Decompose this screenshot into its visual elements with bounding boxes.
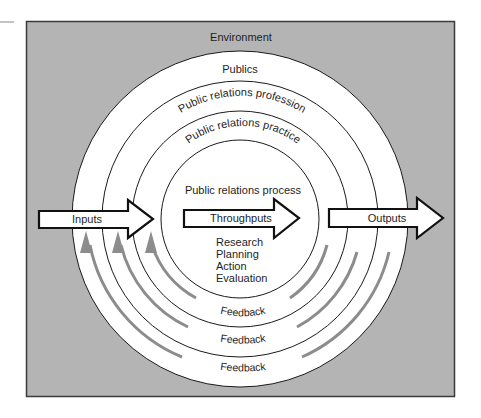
process-label: Public relations process xyxy=(185,184,302,196)
outputs-label: Outputs xyxy=(368,212,407,224)
step-planning: Planning xyxy=(216,248,259,260)
publics-label: Publics xyxy=(222,63,258,75)
feedback-label-outer: Feedback xyxy=(220,360,267,374)
environment-label: Environment xyxy=(210,31,272,43)
feedback-label-middle-path: Feedback xyxy=(220,331,267,345)
step-research: Research xyxy=(216,236,263,248)
inputs-label: Inputs xyxy=(72,213,102,225)
step-action: Action xyxy=(216,260,247,272)
feedback-label-outer-path: Feedback xyxy=(220,360,267,374)
step-evaluation: Evaluation xyxy=(216,272,267,284)
throughputs-label: Throughputs xyxy=(210,212,272,224)
pr-systems-diagram: Environment Publics Public relations pro… xyxy=(0,0,481,418)
feedback-label-middle: Feedback xyxy=(220,331,267,345)
